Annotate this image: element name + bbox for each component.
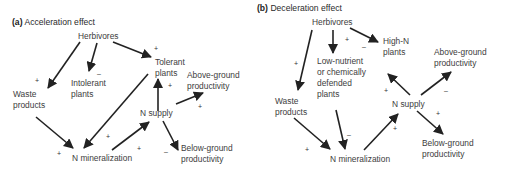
panel-a-tag: (a) (12, 17, 23, 27)
node-b-lownut-line4: plants (317, 89, 339, 100)
sign-tolerant-nmin: + (106, 133, 110, 141)
sign-b-nsupply-highn: + (384, 87, 388, 95)
sign-b-nmin-nsupply: + (393, 125, 397, 133)
node-nsupply: N supply (140, 108, 173, 119)
panel-acceleration: (a) Acceleration effect Herbivores Toler… (0, 0, 250, 173)
node-above-line2: productivity (187, 81, 229, 92)
node-b-below-line2: productivity (422, 149, 464, 160)
node-below-line1: Below-ground (181, 143, 233, 154)
node-b-herbivores: Herbivores (312, 17, 353, 28)
sign-herb-intolerant: – (97, 70, 101, 78)
sign-nsupply-below: – (164, 148, 168, 156)
sign-nsupply-above: + (198, 103, 202, 111)
node-b-highn-line2: plants (383, 47, 405, 58)
sign-b-nsupply-above: – (444, 87, 448, 95)
node-b-lownut-line1: Low-nutrient (317, 56, 363, 67)
sign-herb-waste: + (35, 77, 39, 85)
node-b-highn-line1: High-N (383, 36, 409, 47)
node-intolerant-line2: plants (71, 89, 93, 100)
sign-b-waste-nmin: + (305, 146, 309, 154)
sign-nsupply-tolerant: + (168, 82, 172, 90)
sign-b-herb-waste: + (294, 60, 298, 68)
node-b-waste-line2: products (275, 107, 307, 118)
sign-b-herb-lownut: + (345, 36, 349, 44)
node-waste-line2: products (13, 100, 45, 111)
node-b-lownut-line2: or chemically (317, 67, 366, 78)
sign-herb-tolerant: + (154, 45, 158, 53)
sign-waste-nmin: + (57, 150, 61, 158)
sign-b-nsupply-below: + (436, 110, 440, 118)
panel-a-title-text: Acceleration effect (24, 17, 95, 27)
node-below-line2: productivity (181, 154, 223, 165)
node-herbivores: Herbivores (78, 31, 119, 42)
node-b-waste-line1: Waste (275, 96, 298, 107)
panel-deceleration: (b) Deceleration effect Herbivores High-… (250, 0, 506, 173)
node-b-lownut-line3: defended (317, 78, 352, 89)
node-b-above-line1: Above-ground (434, 47, 487, 58)
panel-b-tag: (b) (257, 3, 268, 13)
sign-b-herb-highn: – (362, 43, 366, 51)
node-tolerant-line2: plants (155, 68, 177, 79)
node-b-nsupply: N supply (392, 99, 425, 110)
node-b-nmin: N mineralization (330, 154, 390, 165)
panel-a-title: (a) Acceleration effect (12, 17, 95, 27)
panel-b-title: (b) Deceleration effect (257, 3, 342, 13)
panel-b-title-text: Deceleration effect (270, 3, 342, 13)
node-tolerant-line1: Tolerant (155, 57, 185, 68)
node-b-below-line1: Below-ground (422, 138, 474, 149)
node-nmin: N mineralization (72, 153, 132, 164)
sign-b-lownut-nmin: – (347, 131, 351, 139)
node-intolerant-line1: Intolerant (71, 78, 106, 89)
node-waste-line1: Waste (13, 89, 36, 100)
node-b-above-line2: productivity (434, 58, 476, 69)
node-above-line1: Above-ground (187, 70, 240, 81)
sign-nmin-nsupply: + (137, 145, 141, 153)
